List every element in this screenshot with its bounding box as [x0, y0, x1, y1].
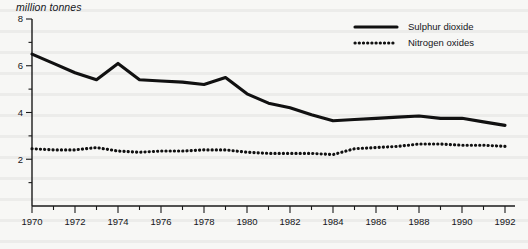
x-tick-label: 1982: [279, 216, 300, 227]
y-tick-label: 4: [18, 107, 23, 118]
x-axis: 1970197219741976197819801982198419861988…: [21, 206, 515, 227]
y-tick-label: 2: [18, 154, 23, 165]
x-tick-label: 1986: [365, 216, 386, 227]
legend-label: Nitrogen oxides: [408, 37, 474, 48]
series-line-nitrogen-oxides: [32, 144, 505, 155]
emissions-line-chart: million tonnes 2468 19701972197419761978…: [0, 0, 528, 249]
x-tick-label: 1984: [322, 216, 343, 227]
x-tick-label: 1972: [64, 216, 85, 227]
chart-legend: Sulphur dioxideNitrogen oxides: [355, 21, 474, 48]
x-tick-label: 1976: [150, 216, 171, 227]
x-tick-label: 1980: [236, 216, 257, 227]
x-tick-label: 1970: [21, 216, 42, 227]
plot-area: 2468 19701972197419761978198019821984198…: [0, 0, 528, 249]
x-tick-label: 1974: [107, 216, 128, 227]
y-tick-label: 6: [18, 60, 23, 71]
x-tick-label: 1990: [451, 216, 472, 227]
data-series-group: [32, 54, 505, 155]
y-axis: 2468: [18, 13, 32, 206]
series-line-sulphur-dioxide: [32, 54, 505, 125]
y-tick-label: 8: [18, 13, 23, 24]
x-tick-label: 1978: [193, 216, 214, 227]
x-tick-label: 1992: [494, 216, 515, 227]
legend-label: Sulphur dioxide: [408, 21, 474, 32]
x-tick-label: 1988: [408, 216, 429, 227]
